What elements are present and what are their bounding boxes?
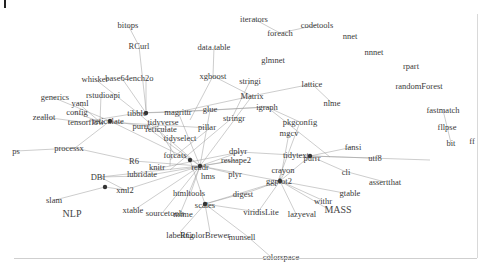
- node-label-randomforest: randomForest: [395, 82, 442, 91]
- node-label-hms: hms: [201, 172, 215, 181]
- node-label-utf8: utf8: [368, 154, 382, 163]
- node-label-matrix: Matrix: [240, 92, 263, 101]
- node-label-nlme: nlme: [324, 99, 341, 108]
- node-label-zeallot: zeallot: [33, 113, 56, 122]
- network-graph-canvas: bitopsRCurliteratorscodetoolsforeachnnet…: [0, 0, 487, 274]
- node-label-munsell: munsell: [229, 233, 256, 242]
- node-label-nnnet: nnnet: [365, 48, 384, 57]
- node-label-xtable: xtable: [123, 206, 144, 215]
- node-label-lattice: lattice: [302, 80, 323, 89]
- plot-border-bottom: [14, 258, 477, 259]
- node-label-stringi: stringi: [239, 77, 261, 86]
- node-label-ps: ps: [12, 147, 20, 156]
- node-label-glmnet: glmnet: [261, 56, 285, 65]
- node-label-rcolorbrewer: RColorBrewer: [180, 231, 230, 240]
- node-label-fllpse: fllpse: [438, 123, 457, 132]
- graph-edge: [55, 187, 105, 200]
- node-label-rcurl: RCurl: [129, 42, 150, 51]
- node-label-tidyselect: tidyselect: [164, 134, 197, 143]
- node-label-scales: scales: [195, 201, 215, 210]
- node-label-tibble: tibble: [127, 109, 146, 118]
- node-label-foreach: foreach: [267, 29, 292, 38]
- node-label-digest: digest: [233, 190, 253, 199]
- node-label-pkgconfig: pkgconfig: [283, 118, 317, 127]
- node-label-fastmatch: fastmatch: [426, 106, 459, 115]
- node-label-base64enc: base64enc: [105, 74, 140, 83]
- node-label-rpart: rpart: [403, 62, 419, 71]
- node-label-mgcv: mgcv: [280, 129, 299, 138]
- node-label-reticulate: reticulate: [92, 117, 124, 126]
- node-label-colorspace: colorspace: [263, 253, 299, 262]
- node-label-bitops: bitops: [118, 21, 139, 30]
- node-label-cli: cli: [342, 168, 351, 177]
- node-label-igraph: igraph: [256, 103, 278, 112]
- node-label-h2o: h2o: [141, 74, 154, 83]
- node-label-config: config: [66, 108, 88, 117]
- node-label-rstudioapi: rstudioapi: [86, 91, 120, 100]
- node-label-tidyverse: tidyverse: [147, 118, 178, 127]
- node-label-reshape2: reshape2: [221, 156, 251, 165]
- node-label-xgboost: xgboost: [200, 72, 227, 81]
- node-label-lazyeval: lazyeval: [288, 210, 316, 219]
- node-label-mass: MASS: [324, 205, 351, 215]
- node-label-nlp: NLP: [63, 209, 82, 219]
- node-label-viridislite: viridisLite: [243, 208, 278, 217]
- node-label-ggplot2: ggplot2: [266, 177, 292, 186]
- node-label-magrittr: magrittr: [164, 108, 191, 117]
- node-label-forcats: forcats: [163, 151, 186, 160]
- node-label-nnet: nnet: [343, 32, 358, 41]
- node-label-slam: slam: [46, 196, 62, 205]
- node-label-iterators: iterators: [240, 15, 268, 24]
- plot-border-right: [477, 14, 478, 258]
- hub-node-marker: [103, 185, 107, 189]
- node-label-processx: processx: [54, 144, 84, 153]
- node-label-bit: bit: [447, 139, 456, 148]
- node-label-r6: R6: [129, 157, 139, 166]
- node-label-stringr: stringr: [223, 114, 245, 123]
- node-label-xml2: xml2: [116, 186, 133, 195]
- node-label-pillar: pillar: [198, 123, 216, 132]
- node-label-fansi: fansi: [345, 143, 362, 152]
- node-label-plyr: plyr: [228, 170, 242, 179]
- node-label-assertthat: assertthat: [369, 178, 401, 187]
- node-label-htmltools: htmltools: [173, 189, 205, 198]
- node-label-purrr: purrr: [304, 154, 321, 163]
- node-label-data-table: data.table: [198, 43, 231, 52]
- node-label-generics: generics: [41, 93, 69, 102]
- node-label-ff: ff: [469, 137, 475, 146]
- node-label-dbi: DBI: [91, 173, 106, 182]
- cursor-mark: [4, 0, 6, 8]
- node-label-mime: mime: [173, 210, 192, 219]
- node-label-glue: glue: [203, 105, 218, 114]
- node-label-lubridate: lubridate: [127, 170, 157, 179]
- node-label-codetools: codetools: [301, 21, 334, 30]
- node-label-gtable: gtable: [340, 189, 361, 198]
- node-label-crayon: crayon: [271, 166, 294, 175]
